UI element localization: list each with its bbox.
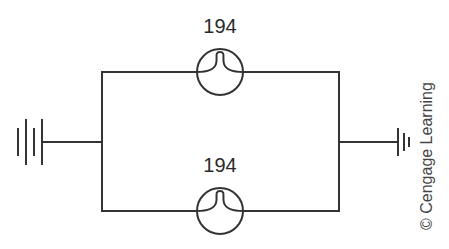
circuit-svg: 194 194 bbox=[0, 0, 449, 249]
lamp-icon bbox=[197, 188, 243, 234]
lamp-label-bottom: 194 bbox=[203, 154, 236, 176]
circuit-diagram: 194 194 © Cengage Learning bbox=[0, 0, 449, 249]
copyright-credit: © Cengage Learning bbox=[418, 82, 436, 230]
battery-icon bbox=[18, 119, 42, 165]
lamp-icon bbox=[197, 49, 243, 95]
ground-icon bbox=[398, 128, 409, 156]
lamp-label-top: 194 bbox=[203, 15, 236, 37]
